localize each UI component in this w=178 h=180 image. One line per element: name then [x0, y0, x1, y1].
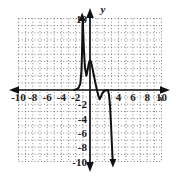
y-tick-label: -4: [78, 113, 88, 125]
x-axis-title: x: [158, 93, 164, 103]
x-tick-label: -4: [57, 91, 67, 103]
x-tick-label: 6: [130, 91, 136, 103]
y-axis-title: y: [99, 3, 106, 15]
x-tick-label: 4: [116, 91, 122, 103]
coordinate-plane-svg: -10-8-6-4-24681010-2-4-6-8-10 x y: [0, 0, 178, 180]
x-tick-label: -8: [28, 91, 38, 103]
y-tick-label: -10: [72, 156, 87, 168]
x-tick-label: -10: [11, 91, 26, 103]
graph-figure: -10-8-6-4-24681010-2-4-6-8-10 x y: [0, 0, 178, 180]
y-tick-label: -2: [78, 98, 88, 110]
x-tick-label: 8: [144, 91, 150, 103]
y-tick-label: 10: [76, 13, 88, 25]
y-tick-label: -6: [78, 127, 88, 139]
x-tick-label: -6: [43, 91, 53, 103]
y-tick-label: -8: [78, 141, 88, 153]
